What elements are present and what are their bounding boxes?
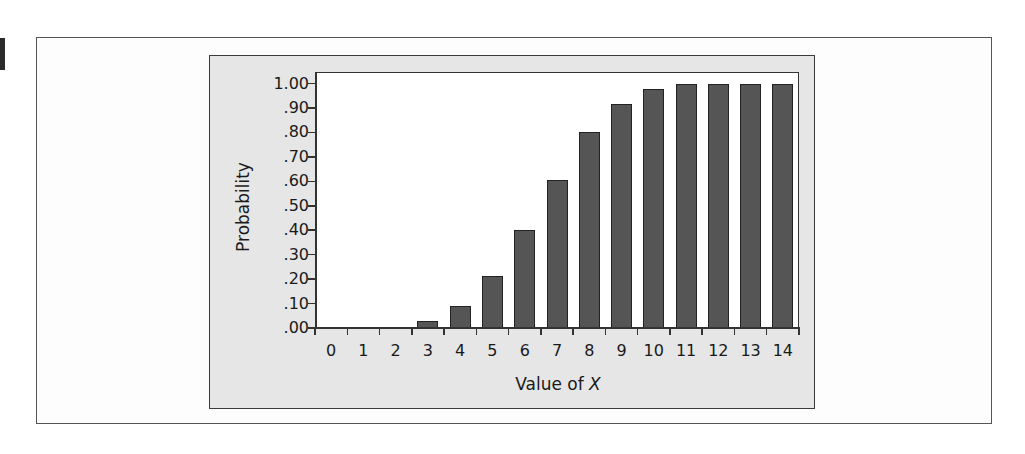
- x-axis-title-prefix: Value of: [515, 374, 589, 394]
- bar-x-10: [643, 89, 664, 328]
- x-tick-mark: [411, 328, 413, 335]
- y-tick-mark: [308, 229, 315, 231]
- x-axis-title: Value of X: [515, 374, 601, 394]
- y-tick-label: .30: [284, 247, 309, 263]
- x-tick-label: 14: [767, 343, 799, 359]
- x-axis: [315, 327, 800, 329]
- bar-x-9: [611, 104, 632, 328]
- bar-x-11: [676, 84, 697, 328]
- x-tick-mark: [379, 328, 381, 335]
- bar-x-14: [772, 84, 793, 329]
- y-tick-label: .90: [284, 100, 309, 116]
- y-tick-mark: [308, 107, 315, 109]
- y-tick-label: .50: [284, 198, 309, 214]
- x-tick-mark: [605, 328, 607, 335]
- bar-x-7: [547, 180, 568, 328]
- x-tick-label: 0: [315, 343, 347, 359]
- x-tick-mark: [637, 328, 639, 335]
- x-tick-mark: [669, 328, 671, 335]
- y-tick-label: 1.00: [273, 76, 309, 92]
- x-tick-label: 9: [606, 343, 638, 359]
- y-tick-mark: [308, 156, 315, 158]
- y-tick-label: .40: [284, 222, 309, 238]
- y-tick-label: .20: [284, 271, 309, 287]
- y-tick-label: .70: [284, 149, 309, 165]
- bar-x-12: [708, 84, 729, 329]
- x-tick-mark: [572, 328, 574, 335]
- x-tick-mark: [443, 328, 445, 335]
- x-tick-mark: [540, 328, 542, 335]
- y-tick-mark: [308, 205, 315, 207]
- y-tick-mark: [308, 181, 315, 183]
- x-tick-mark: [766, 328, 768, 335]
- x-tick-mark: [314, 328, 316, 335]
- x-tick-mark: [701, 328, 703, 335]
- x-tick-mark: [476, 328, 478, 335]
- y-tick-label: .10: [284, 296, 309, 312]
- y-tick-mark: [308, 254, 315, 256]
- x-tick-label: 4: [444, 343, 476, 359]
- figure-marker: [0, 38, 5, 70]
- x-tick-label: 5: [476, 343, 508, 359]
- x-axis-title-variable: X: [589, 374, 601, 394]
- x-tick-mark: [734, 328, 736, 335]
- x-tick-label: 13: [735, 343, 767, 359]
- y-tick-mark: [308, 278, 315, 280]
- x-tick-mark: [798, 328, 800, 335]
- y-axis-title: Probability: [233, 162, 253, 252]
- y-tick-mark: [308, 132, 315, 134]
- x-tick-label: 11: [670, 343, 702, 359]
- x-tick-label: 6: [509, 343, 541, 359]
- x-tick-mark: [347, 328, 349, 335]
- x-tick-label: 1: [347, 343, 379, 359]
- y-tick-label: .00: [284, 320, 309, 336]
- bar-x-4: [450, 306, 471, 328]
- x-tick-label: 12: [702, 343, 734, 359]
- x-tick-label: 10: [638, 343, 670, 359]
- y-tick-label: .60: [284, 173, 309, 189]
- x-tick-label: 8: [573, 343, 605, 359]
- y-tick-mark: [308, 303, 315, 305]
- x-tick-label: 3: [412, 343, 444, 359]
- bar-x-6: [514, 230, 535, 328]
- bar-x-5: [482, 276, 503, 328]
- bar-x-13: [740, 84, 761, 329]
- y-axis: [315, 72, 317, 328]
- x-tick-mark: [508, 328, 510, 335]
- bar-x-8: [579, 132, 600, 328]
- x-tick-label: 2: [380, 343, 412, 359]
- x-tick-label: 7: [541, 343, 573, 359]
- y-tick-mark: [308, 83, 315, 85]
- y-tick-label: .80: [284, 124, 309, 140]
